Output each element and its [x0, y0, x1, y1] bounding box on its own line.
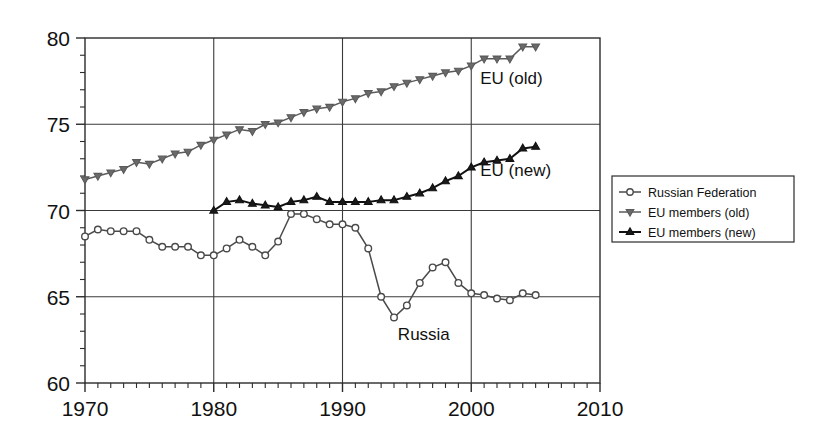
y-tick-label: 70 — [47, 200, 70, 223]
data-point-marker — [275, 238, 282, 245]
y-tick-label: 60 — [47, 372, 70, 395]
data-point-marker — [627, 189, 633, 195]
data-point-marker — [210, 252, 217, 259]
data-point-marker — [120, 228, 127, 235]
legend-item-label: Russian Federation — [648, 186, 756, 200]
data-point-marker — [468, 290, 475, 297]
data-point-marker — [519, 290, 526, 297]
data-point-marker — [159, 243, 166, 250]
data-point-marker — [455, 280, 462, 287]
data-point-marker — [313, 216, 320, 223]
data-point-marker — [352, 224, 359, 231]
data-point-marker — [146, 237, 153, 244]
chart-figure: 19701980199020002010 6065707580 EU (old)… — [0, 0, 815, 440]
data-point-marker — [326, 221, 333, 228]
y-tick-label: 65 — [47, 286, 70, 309]
x-tick-label: 2010 — [577, 397, 624, 420]
x-tick-label: 1980 — [190, 397, 237, 420]
data-point-marker — [494, 295, 501, 302]
data-point-marker — [236, 237, 243, 244]
data-point-marker — [507, 297, 514, 304]
chart-legend[interactable]: Russian FederationEU members (old)EU mem… — [612, 176, 794, 242]
legend-item-label: EU members (new) — [648, 226, 756, 240]
data-point-marker — [416, 280, 423, 287]
data-point-marker — [378, 293, 385, 300]
data-point-marker — [404, 302, 411, 309]
data-point-marker — [95, 226, 102, 233]
data-point-marker — [249, 243, 256, 250]
annotation-label: Russia — [398, 325, 451, 344]
data-point-marker — [172, 243, 179, 250]
data-point-marker — [107, 228, 114, 235]
data-point-marker — [262, 252, 269, 259]
data-point-marker — [365, 245, 372, 252]
x-tick-label: 1970 — [62, 397, 109, 420]
data-point-marker — [532, 292, 539, 299]
line-chart: 19701980199020002010 6065707580 EU (old)… — [0, 0, 815, 440]
data-point-marker — [133, 228, 140, 235]
annotation-label: EU (new) — [480, 161, 551, 180]
data-point-marker — [82, 233, 89, 240]
y-tick-label: 80 — [47, 27, 70, 50]
data-point-marker — [301, 211, 308, 218]
data-point-marker — [481, 292, 488, 299]
data-point-marker — [442, 259, 449, 266]
data-point-marker — [185, 243, 192, 250]
data-point-marker — [429, 264, 436, 271]
y-tick-label: 75 — [47, 113, 70, 136]
data-point-marker — [391, 314, 398, 321]
data-point-marker — [223, 245, 230, 252]
legend-item-label: EU members (old) — [648, 206, 749, 220]
data-point-marker — [288, 211, 295, 218]
annotation-label: EU (old) — [480, 69, 542, 88]
x-tick-label: 2000 — [448, 397, 495, 420]
data-point-marker — [339, 221, 346, 228]
x-tick-label: 1990 — [319, 397, 366, 420]
data-point-marker — [198, 252, 205, 259]
